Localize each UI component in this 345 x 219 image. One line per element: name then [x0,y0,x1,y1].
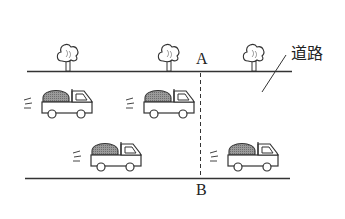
truck-icon [73,142,141,171]
point-a-label: A [196,50,208,68]
point-b-label: B [196,181,207,199]
road-diagram [0,0,345,219]
road-leader-line [262,55,286,92]
road-label: 道路 [291,40,323,64]
truck-icon [126,89,194,118]
truck-icon [24,89,92,118]
truck-icon [210,142,278,171]
tree-icon [57,45,77,71]
tree-icon [243,45,263,71]
tree-icon [158,45,178,71]
